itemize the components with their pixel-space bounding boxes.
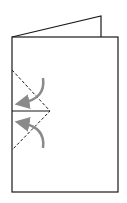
card-fold-diagram [0, 0, 127, 203]
front-panel [12, 37, 118, 192]
back-panel [12, 16, 101, 37]
